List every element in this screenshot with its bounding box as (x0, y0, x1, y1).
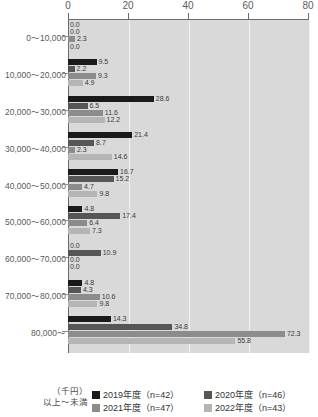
bar (68, 184, 82, 190)
x-tick-label: 60 (242, 0, 253, 11)
legend-swatch (92, 404, 100, 412)
category-label: 80,000～ (0, 326, 66, 338)
bar-value-label: 14.6 (114, 154, 128, 160)
bar (68, 59, 97, 65)
unit-note-line2: 以上～未満 (0, 397, 88, 408)
bar-value-label: 4.8 (84, 280, 94, 286)
x-tick-label: 80 (302, 0, 313, 11)
bar (68, 154, 112, 160)
legend-item: 2020年度（n=46） (204, 388, 318, 401)
bar-value-label: 0.0 (70, 257, 80, 263)
bar-value-label: 9.8 (99, 301, 109, 307)
category-label: 70,000～80,000 (0, 289, 66, 301)
unit-note-line1: （千円） (0, 386, 88, 397)
legend-swatch (92, 391, 100, 399)
bar (68, 110, 103, 116)
legend-label: 2021年度（n=47） (103, 401, 179, 414)
legend-item: 2022年度（n=43） (204, 401, 318, 414)
bar (68, 228, 90, 234)
category-row: 0～10,0000.00.02.30.0 (0, 22, 318, 59)
unit-note: （千円） 以上～未満 (0, 386, 88, 408)
bar (68, 301, 97, 307)
x-tick (188, 13, 189, 20)
bar-value-label: 2.2 (77, 66, 87, 72)
bar-value-label: 9.8 (99, 191, 109, 197)
bar (68, 169, 118, 175)
legend-swatch (204, 404, 212, 412)
bar-value-label: 4.8 (84, 206, 94, 212)
bar-value-label: 16.7 (120, 169, 134, 175)
bar-value-label: 4.3 (83, 287, 93, 293)
x-tick-label: 40 (182, 0, 193, 11)
x-tick-label: 20 (122, 0, 133, 11)
bar (68, 220, 87, 226)
bar-value-label: 72.3 (287, 331, 301, 337)
bar (68, 206, 82, 212)
category-row: 50,000～60,0004.817.46.47.3 (0, 206, 318, 243)
category-row: 80,000～14.334.872.355.8 (0, 316, 318, 353)
bar (68, 140, 94, 146)
x-tick-label: 0 (65, 0, 71, 11)
bar (68, 338, 235, 344)
bar (68, 36, 75, 42)
bar-value-label: 4.7 (84, 184, 94, 190)
bar (68, 280, 82, 286)
category-label: 20,000～30,000 (0, 105, 66, 117)
x-tick (248, 13, 249, 20)
x-tick (128, 13, 129, 20)
bar-value-label: 8.7 (96, 140, 106, 146)
x-tick (308, 13, 309, 20)
bar (68, 66, 75, 72)
category-tick (62, 257, 68, 258)
category-row: 40,000～50,00016.715.24.79.8 (0, 169, 318, 206)
bar-value-label: 55.8 (237, 338, 251, 344)
bar (68, 176, 114, 182)
bar (68, 73, 96, 79)
legend-swatch (204, 391, 212, 399)
category-label: 0～10,000 (0, 31, 66, 43)
bar (68, 316, 111, 322)
bar-value-label: 12.2 (107, 117, 121, 123)
bar-value-label: 14.3 (113, 316, 127, 322)
bar-value-label: 21.4 (134, 132, 148, 138)
bar (68, 331, 285, 337)
bar (68, 80, 83, 86)
bar-value-label: 0.0 (70, 264, 80, 270)
category-row: 10,000～20,0009.52.29.34.9 (0, 59, 318, 96)
bar (68, 287, 81, 293)
legend-label: 2022年度（n=43） (215, 401, 291, 414)
bar-value-label: 10.6 (102, 294, 116, 300)
bar-value-label: 2.3 (77, 36, 87, 42)
bar-value-label: 6.5 (90, 103, 100, 109)
bar (68, 294, 100, 300)
legend-label: 2019年度（n=42） (103, 388, 179, 401)
legend-label: 2020年度（n=46） (215, 388, 291, 401)
bar-value-label: 11.6 (105, 110, 118, 116)
bar-value-label: 10.9 (103, 250, 117, 256)
legend: 2019年度（n=42）2020年度（n=46）2021年度（n=47）2022… (92, 388, 318, 414)
bar-value-label: 34.8 (174, 324, 188, 330)
bar (68, 147, 75, 153)
bar-value-label: 28.6 (156, 96, 170, 102)
bar (68, 250, 101, 256)
category-row: 60,000～70,0000.010.90.00.0 (0, 243, 318, 280)
bar (68, 96, 154, 102)
bar-chart: 020406080 0～10,0000.00.02.30.010,000～20,… (0, 0, 318, 417)
bar (68, 117, 105, 123)
category-label: 60,000～70,000 (0, 252, 66, 264)
bar-value-label: 2.3 (77, 147, 87, 153)
category-row: 20,000～30,00028.66.511.612.2 (0, 96, 318, 133)
category-label: 40,000～50,000 (0, 179, 66, 191)
bar-value-label: 15.2 (116, 176, 130, 182)
bar-value-label: 0.0 (70, 22, 80, 28)
bar (68, 103, 88, 109)
category-label: 10,000～20,000 (0, 68, 66, 80)
bar-value-label: 7.3 (92, 228, 102, 234)
bar-value-label: 9.5 (99, 59, 109, 65)
bar-value-label: 4.9 (85, 80, 95, 86)
x-tick (68, 13, 69, 20)
bar (68, 191, 97, 197)
bar-value-label: 6.4 (89, 220, 99, 226)
category-row: 70,000～80,0004.84.310.69.8 (0, 280, 318, 317)
bar-value-label: 9.3 (98, 73, 108, 79)
